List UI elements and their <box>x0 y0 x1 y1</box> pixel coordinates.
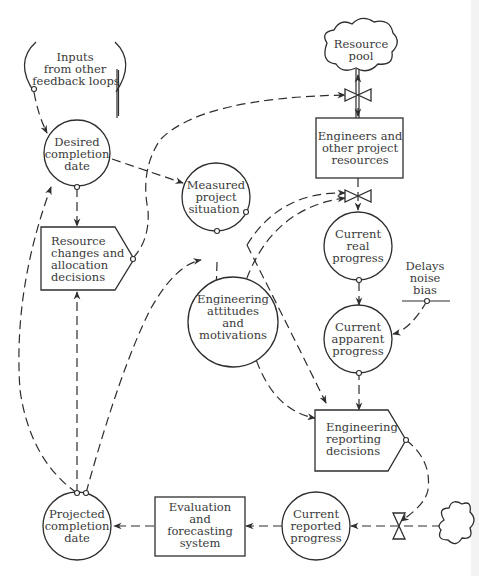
resource-decisions-label-4: decisions <box>51 270 105 284</box>
apparent-tap-dot <box>357 371 362 376</box>
node-resource-decisions: Resource changes and allocation decision… <box>41 227 136 290</box>
edge-reporting-to-reporting-valve <box>401 440 429 521</box>
edge-projected-to-measured <box>86 260 201 493</box>
node-inputs: Inputs from other feedback loops <box>24 42 125 92</box>
evaluation-label-4: system <box>180 536 221 550</box>
inputs-tap-dot <box>32 87 37 92</box>
node-evaluation-forecasting: Evaluation and forecasting system <box>155 497 245 556</box>
real-tap-dot <box>357 278 362 283</box>
delays-label-3: bias <box>413 283 437 297</box>
projected-tap-dot-1 <box>75 491 80 496</box>
feedback-loop-diagram: Inputs from other feedback loops Resourc… <box>0 0 479 576</box>
edge-inputs-to-desired <box>34 92 47 133</box>
reporting-tap-dot <box>404 438 409 443</box>
node-delays-noise-bias: Delays noise bias <box>402 259 450 304</box>
node-current-reported-progress: Current reported progress <box>282 492 350 560</box>
node-current-apparent-progress: Current apparent progress <box>324 305 392 376</box>
attitudes-label-4: motivations <box>199 328 267 342</box>
inputs-label-3: feedback loops <box>32 74 119 88</box>
node-current-real-progress: Current real progress <box>324 212 392 283</box>
node-desired-completion-date: Desired completion date <box>44 120 110 190</box>
reported-label-3: progress <box>290 531 341 545</box>
node-measured-project-situation: Measured project situation <box>182 163 250 234</box>
cloud-icon <box>439 502 474 544</box>
edge-delays-to-apparent <box>393 301 427 334</box>
node-engineers-resources: Engineers and other project resources <box>316 118 403 178</box>
node-source-cloud <box>439 502 474 544</box>
delays-tap-dot <box>425 299 430 304</box>
apparent-label-3: progress <box>332 344 383 358</box>
measured-bottom-tap-dot <box>215 229 220 234</box>
real-label-3: progress <box>332 251 383 265</box>
measured-label-3: situation <box>188 202 240 216</box>
desired-tap-dot <box>75 185 80 190</box>
engineers-label-3: resources <box>331 153 388 167</box>
measured-right-tap-dot <box>244 210 249 215</box>
projected-tap-dot-2 <box>84 491 89 496</box>
node-engineering-attitudes: Engineering attitudes and motivations <box>188 277 278 367</box>
desired-label-3: date <box>64 159 90 173</box>
node-projected-completion-date: Projected completion date <box>43 491 111 561</box>
resource-decisions-tap-dot <box>131 257 136 262</box>
projected-label-3: date <box>64 531 90 545</box>
node-engineering-reporting-decisions: Engineering reporting decisions <box>315 410 409 471</box>
resource-pool-label-2: pool <box>349 49 374 63</box>
resource-valve-icon <box>345 89 371 101</box>
node-resource-pool: Resource pool <box>325 18 398 70</box>
reporting-label-3: decisions <box>326 444 380 458</box>
